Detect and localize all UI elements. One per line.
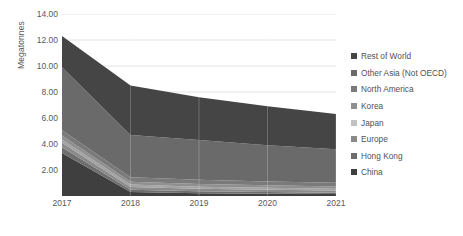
legend-swatch-icon: [351, 103, 357, 109]
legend-item[interactable]: Korea: [351, 98, 463, 115]
x-tick-label: 2019: [190, 198, 209, 208]
stacked-area-chart: Megatonnes 2.004.006.008.0010.0012.0014.…: [0, 0, 463, 236]
legend-item[interactable]: North America: [351, 81, 463, 98]
x-tick-label: 2018: [121, 198, 140, 208]
legend-swatch-icon: [351, 169, 357, 175]
plot-svg: [62, 14, 336, 196]
y-tick-label: 12.00: [37, 35, 58, 45]
legend-swatch-icon: [351, 70, 357, 76]
x-tick-label: 2017: [53, 198, 72, 208]
legend-item[interactable]: Europe: [351, 131, 463, 148]
legend-item[interactable]: Hong Kong: [351, 148, 463, 165]
legend-swatch-icon: [351, 53, 357, 59]
legend-item-label: North America: [361, 85, 414, 93]
legend-swatch-icon: [351, 153, 357, 159]
legend-item-label: Japan: [361, 119, 384, 127]
legend-item[interactable]: Rest of World: [351, 48, 463, 65]
chart-legend: Rest of WorldOther Asia (Not OECD)North …: [351, 48, 463, 181]
y-tick-label: 2.00: [41, 165, 58, 175]
legend-item[interactable]: China: [351, 164, 463, 181]
y-tick-label: 4.00: [41, 139, 58, 149]
x-axis-tick-labels: 20172018201920202021: [62, 198, 336, 218]
legend-item[interactable]: Other Asia (Not OECD): [351, 65, 463, 82]
y-tick-label: 6.00: [41, 113, 58, 123]
plot-area: [62, 14, 336, 196]
legend-item-label: Hong Kong: [361, 152, 403, 160]
y-tick-label: 10.00: [37, 61, 58, 71]
legend-item-label: Europe: [361, 135, 388, 143]
y-tick-label: 8.00: [41, 87, 58, 97]
y-tick-label: 14.00: [37, 9, 58, 19]
legend-item[interactable]: Japan: [351, 114, 463, 131]
legend-swatch-icon: [351, 136, 357, 142]
legend-item-label: Other Asia (Not OECD): [361, 69, 447, 77]
x-tick-label: 2020: [258, 198, 277, 208]
x-tick-label: 2021: [327, 198, 346, 208]
legend-item-label: Korea: [361, 102, 383, 110]
legend-item-label: Rest of World: [361, 52, 411, 60]
legend-item-label: China: [361, 168, 383, 176]
legend-swatch-icon: [351, 86, 357, 92]
legend-swatch-icon: [351, 120, 357, 126]
